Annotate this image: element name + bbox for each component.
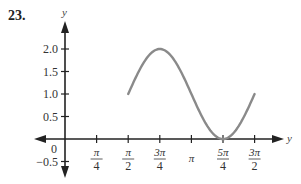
y-tick-label: 1.0 [43,87,58,101]
graph: yy2.01.51.00.5−0.50π4π23π4π5π43π2 [0,0,301,184]
x-tick-label-numerator: 5π [217,146,229,158]
x-tick-label-denominator: 2 [252,159,258,173]
x-tick-label-denominator: 4 [220,159,226,173]
x-tick-label-denominator: 2 [125,159,131,173]
x-axis-right-arrow-icon [272,135,284,143]
x-tick-label-numerator: 3π [248,146,261,158]
x-tick-label-numerator: 3π [153,146,166,158]
x-tick-label-denominator: 4 [94,159,100,173]
y-tick-label: 1.5 [43,65,58,79]
y-tick-label: −0.5 [36,155,58,169]
x-tick-label-denominator: 4 [157,159,163,173]
x-tick-label: π [189,152,195,164]
y-tick-label: 2.0 [43,42,58,56]
origin-label: 0 [51,142,57,156]
y-axis-down-arrow-icon [61,166,69,178]
x-tick-label-numerator: π [94,146,100,158]
y-tick-label: 0.5 [43,110,58,124]
x-tick-label-numerator: π [125,146,131,158]
x-axis-label: y [286,132,292,144]
function-curve [128,49,254,139]
y-axis-label: y [61,6,67,18]
y-axis-up-arrow-icon [61,21,69,33]
x-axis-left-arrow-icon [34,135,46,143]
